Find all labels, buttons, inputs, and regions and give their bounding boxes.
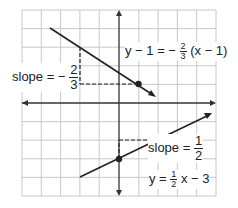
axes [22, 12, 214, 194]
slope-2-prefix: slope = [148, 140, 190, 155]
equation-2-lhs: y = [149, 171, 167, 186]
slope-label-2: slope = 1 2 [148, 134, 203, 163]
fraction-numerator: 2 [69, 63, 78, 78]
slope-1-prefix: slope = − [12, 69, 66, 84]
slope-2-fraction: 1 2 [194, 134, 203, 163]
equation-1-rhs: (x − 1) [190, 43, 227, 58]
equation-label-2: y = 1 2 x − 3 [149, 170, 210, 189]
point-1 [135, 81, 141, 87]
fraction-denominator: 2 [170, 180, 177, 189]
slope-label-1: slope = − 2 3 [12, 63, 78, 92]
slope-1-fraction: 2 3 [69, 63, 78, 92]
fraction-denominator: 3 [180, 52, 187, 61]
line-1-arrow [148, 90, 156, 97]
fraction-denominator: 3 [69, 78, 78, 92]
point-2 [116, 156, 122, 162]
equation-label-1: y − 1 = − 2 3 (x − 1) [125, 42, 227, 61]
equation-2-rhs: x − 3 [181, 171, 210, 186]
equation-2-fraction: 1 2 [170, 170, 177, 189]
equation-1-fraction: 2 3 [180, 42, 187, 61]
fraction-denominator: 2 [194, 149, 203, 163]
fraction-numerator: 1 [194, 134, 203, 149]
equation-1-lhs: y − 1 = − [125, 43, 176, 58]
